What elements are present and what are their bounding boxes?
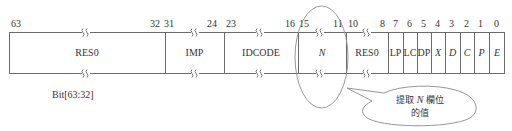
callout-line-2: 的值 — [372, 107, 468, 120]
field-imp: IMP — [165, 32, 224, 73]
field-lc: LC — [403, 32, 417, 73]
callout-var: N — [417, 94, 424, 105]
field-lp: LP — [388, 32, 403, 73]
field-c: C — [460, 32, 474, 73]
field-res0-high: RES0 — [9, 32, 165, 73]
field-x: X — [431, 32, 445, 73]
field-n: N — [298, 32, 346, 73]
field-e: E — [489, 32, 505, 73]
callout-line-1: 提取 N 欄位 — [372, 93, 468, 107]
callout-prefix: 提取 — [396, 95, 414, 105]
field-idcode: IDCODE — [224, 32, 298, 73]
callout-suffix: 欄位 — [426, 95, 444, 105]
field-dp: DP — [417, 32, 431, 73]
field-res0-low: RES0 — [346, 32, 388, 73]
field-d: D — [445, 32, 460, 73]
callout-text: 提取 N 欄位 的值 — [372, 93, 468, 120]
bit-range-caption: Bit[63:32] — [52, 89, 94, 100]
field-p: P — [474, 32, 489, 73]
